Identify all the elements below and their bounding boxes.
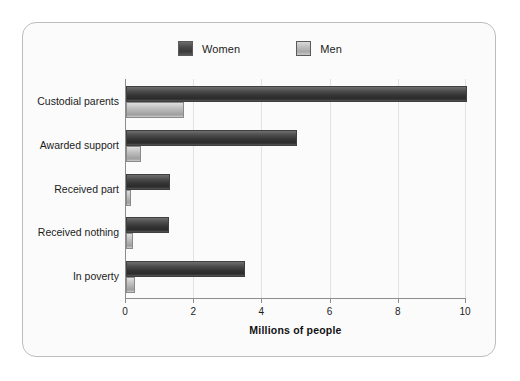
x-tick-mark-0 — [125, 298, 126, 303]
x-tick-label-2: 2 — [190, 306, 196, 317]
legend-item-men[interactable]: Men — [296, 41, 342, 56]
x-tick-label-0: 0 — [122, 306, 128, 317]
bar-women-received-nothing[interactable] — [126, 217, 169, 233]
legend-label-men: Men — [320, 43, 342, 55]
category-label-in-poverty: In poverty — [73, 270, 119, 282]
x-tick-label-8: 8 — [395, 306, 401, 317]
bar-women-custodial-parents[interactable] — [126, 86, 467, 102]
bar-group-awarded-support: Awarded support — [126, 123, 466, 167]
bar-group-custodial-parents: Custodial parents — [126, 79, 466, 123]
category-label-received-nothing: Received nothing — [38, 226, 119, 238]
plot-area: 0 2 4 6 8 10 Custodial parents Awarded s… — [125, 79, 466, 298]
legend-item-women[interactable]: Women — [178, 41, 240, 56]
legend-swatch-icon-women — [178, 41, 193, 56]
x-tick-mark-4 — [261, 298, 262, 303]
bar-women-received-part[interactable] — [126, 174, 170, 190]
bar-men-received-part[interactable] — [126, 190, 131, 206]
x-tick-mark-6 — [330, 298, 331, 303]
category-label-received-part: Received part — [54, 183, 119, 195]
bar-group-received-nothing: Received nothing — [126, 210, 466, 254]
bar-men-custodial-parents[interactable] — [126, 102, 184, 118]
bar-group-in-poverty: In poverty — [126, 254, 466, 298]
bar-men-awarded-support[interactable] — [126, 146, 141, 162]
x-tick-label-10: 10 — [459, 306, 470, 317]
x-axis-title: Millions of people — [125, 324, 466, 336]
category-label-awarded-support: Awarded support — [40, 139, 119, 151]
x-axis-line — [125, 298, 466, 299]
category-label-custodial-parents: Custodial parents — [37, 95, 119, 107]
legend-label-women: Women — [202, 43, 240, 55]
chart-card: Women Men 0 2 4 6 8 10 Custodial parents — [22, 22, 496, 357]
bar-women-in-poverty[interactable] — [126, 261, 245, 277]
x-tick-mark-2 — [193, 298, 194, 303]
bar-women-awarded-support[interactable] — [126, 130, 297, 146]
bar-group-received-part: Received part — [126, 167, 466, 211]
bar-men-in-poverty[interactable] — [126, 277, 135, 293]
x-tick-label-6: 6 — [327, 306, 333, 317]
chart-legend: Women Men — [23, 41, 497, 56]
x-tick-label-4: 4 — [259, 306, 265, 317]
bar-men-received-nothing[interactable] — [126, 233, 133, 249]
legend-swatch-icon-men — [296, 41, 311, 56]
x-tick-mark-10 — [465, 298, 466, 303]
x-tick-mark-8 — [398, 298, 399, 303]
